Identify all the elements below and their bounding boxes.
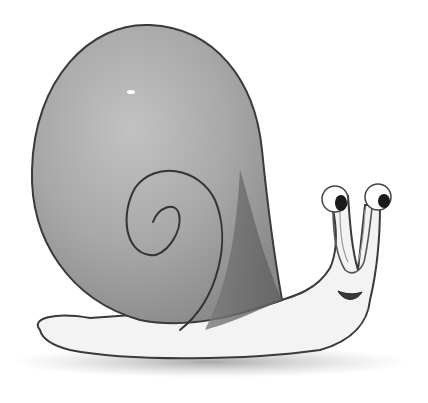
shell-highlight <box>127 90 135 94</box>
left-pupil <box>335 195 347 211</box>
snail-drawing <box>0 0 428 403</box>
right-pupil <box>378 194 390 208</box>
left-eye <box>322 186 348 212</box>
snail-illustration: Watercolor illustration of a smiling sna… <box>0 0 428 403</box>
right-eye <box>365 184 391 210</box>
